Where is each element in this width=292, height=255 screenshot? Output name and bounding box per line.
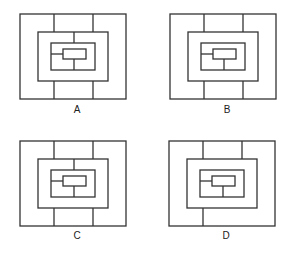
figure-label-d: D	[216, 230, 236, 241]
figure-label-c: C	[67, 230, 87, 241]
figure-d	[169, 141, 275, 226]
innermost-rect	[63, 49, 86, 59]
outer-rect	[169, 141, 275, 226]
outer-rect	[20, 141, 126, 226]
middle-rect	[38, 159, 108, 208]
middle-rect	[38, 32, 108, 81]
figure-a	[20, 14, 126, 99]
figure-c	[20, 141, 126, 226]
figure-b	[170, 14, 276, 99]
middle-rect	[188, 32, 258, 81]
innermost-rect	[213, 49, 236, 59]
innermost-rect	[63, 176, 86, 186]
innermost-rect	[212, 176, 235, 186]
inner-rect	[51, 170, 95, 197]
figure-canvas	[0, 0, 292, 255]
outer-rect	[170, 14, 276, 99]
outer-rect	[20, 14, 126, 99]
inner-rect	[200, 170, 244, 197]
figure-label-a: A	[67, 104, 87, 115]
inner-rect	[51, 43, 95, 70]
inner-rect	[201, 43, 245, 70]
middle-rect	[187, 159, 257, 208]
figure-label-b: B	[217, 104, 237, 115]
